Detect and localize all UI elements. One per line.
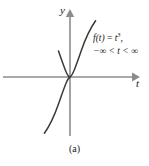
- function-argument: (t): [96, 33, 105, 43]
- domain-line: −∞ < t < ∞: [93, 45, 138, 58]
- trailing-comma: ,: [121, 33, 123, 43]
- function-equation-line: f(t) = t3,: [93, 31, 138, 45]
- equals-sign: =: [105, 33, 115, 43]
- cubic-function-plot: [0, 0, 149, 166]
- cubic-curve: [59, 21, 96, 77]
- figure-caption: (a): [0, 143, 149, 154]
- figure-panel-a: y t f(t) = t3, −∞ < t < ∞ (a): [0, 0, 149, 166]
- cubic-curve-lower-branch: [44, 77, 70, 133]
- t-axis-label: t: [136, 78, 139, 89]
- y-axis-arrowhead: [66, 9, 74, 17]
- y-axis-label: y: [60, 5, 65, 16]
- function-annotation: f(t) = t3, −∞ < t < ∞: [93, 31, 138, 58]
